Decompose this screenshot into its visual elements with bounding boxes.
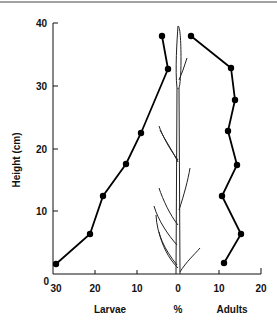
plant-illustration	[154, 26, 200, 274]
larvae-series	[53, 33, 171, 267]
adults-point	[188, 33, 194, 39]
adults-point	[221, 260, 227, 266]
y-tick-0: 0	[43, 276, 49, 287]
x-axis	[53, 268, 261, 274]
adults-series	[188, 33, 244, 266]
larvae-point	[100, 193, 106, 199]
y-axis	[53, 23, 58, 274]
percent-label: %	[174, 304, 183, 315]
larvae-point	[159, 33, 165, 39]
larvae-point	[53, 261, 59, 267]
y-tick-10: 10	[36, 206, 48, 217]
y-tick-40: 40	[36, 18, 48, 29]
x-tick-0: 0	[175, 283, 181, 294]
x-tick-larvae-30: 30	[50, 283, 62, 294]
chart: 40 30 20 10 0 30 20 10 0 10 20 Height (c…	[0, 0, 277, 327]
larvae-label: Larvae	[94, 304, 127, 315]
larvae-point	[165, 66, 171, 72]
y-tick-20: 20	[36, 144, 48, 155]
larvae-point	[123, 161, 129, 167]
x-tick-larvae-10: 10	[131, 283, 143, 294]
x-tick-adults-10: 10	[213, 283, 225, 294]
y-axis-title: Height (cm)	[11, 133, 22, 188]
larvae-point	[138, 130, 144, 136]
adults-label: Adults	[216, 304, 248, 315]
adults-point	[232, 97, 238, 103]
adults-point	[234, 162, 240, 168]
y-tick-30: 30	[36, 81, 48, 92]
x-tick-larvae-20: 20	[89, 283, 101, 294]
adults-point	[238, 231, 244, 237]
larvae-point	[87, 231, 93, 237]
adults-point	[219, 193, 225, 199]
x-tick-adults-20: 20	[255, 283, 267, 294]
adults-point	[228, 65, 234, 71]
adults-point	[225, 128, 231, 134]
